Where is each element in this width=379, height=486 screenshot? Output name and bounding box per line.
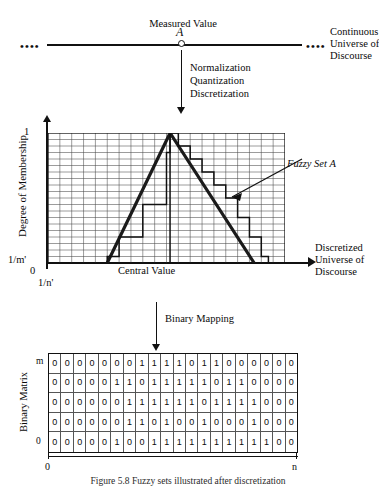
matrix-cell: 0 (273, 374, 285, 394)
matrix-cell: 1 (211, 354, 223, 374)
matrix-cell: 0 (99, 413, 111, 433)
matrix-cell: 0 (111, 354, 123, 374)
x-tick-label-resolution: 1/n' (38, 277, 53, 289)
matrix-cell: 0 (74, 393, 86, 413)
matrix-cell: 0 (74, 374, 86, 394)
matrix-cell: 1 (161, 432, 173, 452)
matrix-cell: 1 (198, 354, 210, 374)
matrix-cell: 0 (261, 413, 273, 433)
matrix-cell: 1 (236, 432, 248, 452)
matrix-cell: 0 (149, 413, 161, 433)
matrix-cell: 0 (286, 393, 297, 413)
continuous-universe-label-1: Continuous (330, 26, 378, 38)
matrix-cell: 0 (136, 432, 148, 452)
matrix-cell: 0 (124, 354, 136, 374)
matrix-cell: 0 (124, 432, 136, 452)
matrix-cell: 1 (248, 393, 260, 413)
matrix-row: 00000001111011000000 (49, 354, 297, 374)
continuous-universe-line (47, 44, 302, 46)
matrix-cell: 0 (136, 374, 148, 394)
matrix-cell: 0 (273, 413, 285, 433)
matrix-cell: 0 (286, 354, 297, 374)
matrix-cell: 1 (124, 413, 136, 433)
figure-caption: Figure 5.8 Fuzzy sets illustrated after … (0, 476, 376, 486)
matrix-cell: 0 (74, 354, 86, 374)
matrix-cell: 0 (61, 354, 73, 374)
matrix-cell: 0 (286, 374, 297, 394)
matrix-cell: 1 (136, 413, 148, 433)
matrix-cell: 1 (111, 374, 123, 394)
matrix-cell: 1 (149, 374, 161, 394)
matrix-cell: 0 (61, 432, 73, 452)
matrix-cell: 1 (174, 393, 186, 413)
matrix-cell: 0 (61, 374, 73, 394)
matrix-x-tick-end (296, 453, 297, 459)
matrix-cell: 1 (236, 374, 248, 394)
binary-matrix: 0000000111101100000000000110111110110000… (48, 353, 298, 453)
matrix-cell: 0 (236, 354, 248, 374)
right-ellipsis-dots: •••• (306, 41, 326, 51)
y-tick-label-min: 1/m' (8, 254, 26, 266)
matrix-cell: 1 (261, 432, 273, 452)
matrix-cell: 0 (248, 374, 260, 394)
matrix-cell: 0 (49, 413, 61, 433)
matrix-cell: 1 (186, 374, 198, 394)
matrix-cell: 0 (286, 432, 297, 452)
matrix-cell: 0 (49, 374, 61, 394)
quantization-label: Quantization (190, 75, 244, 87)
matrix-cell: 0 (261, 374, 273, 394)
binary-matrix-title: Binary Matrix (18, 360, 30, 444)
matrix-cell: 1 (186, 432, 198, 452)
matrix-row: 00000011111101111000 (49, 393, 297, 413)
binary-mapping-label: Binary Mapping (165, 313, 234, 325)
matrix-cell: 1 (198, 374, 210, 394)
matrix-cell: 1 (198, 413, 210, 433)
matrix-cell: 1 (186, 393, 198, 413)
matrix-cell: 0 (223, 413, 235, 433)
matrix-cell: 0 (261, 393, 273, 413)
matrix-cell: 0 (261, 354, 273, 374)
normalization-arrow-stem (181, 50, 183, 108)
matrix-cell: 1 (161, 354, 173, 374)
matrix-cell: 0 (186, 354, 198, 374)
matrix-cell: 0 (248, 354, 260, 374)
matrix-cell: 0 (186, 413, 198, 433)
matrix-cell: 0 (273, 354, 285, 374)
matrix-row-label-bottom: 0 (36, 435, 41, 447)
matrix-cell: 1 (174, 432, 186, 452)
matrix-cell: 0 (61, 393, 73, 413)
matrix-cell: 1 (174, 354, 186, 374)
matrix-cell: 0 (99, 393, 111, 413)
matrix-cell: 1 (223, 393, 235, 413)
matrix-row: 00000110111110110000 (49, 374, 297, 394)
matrix-x-tick-start (48, 453, 49, 459)
matrix-cell: 0 (273, 432, 285, 452)
matrix-cell: 1 (149, 354, 161, 374)
central-value-label: Central Value (118, 265, 175, 277)
matrix-cell: 0 (211, 374, 223, 394)
matrix-cell: 0 (99, 354, 111, 374)
matrix-cell: 1 (161, 413, 173, 433)
matrix-cell: 1 (223, 374, 235, 394)
x-axis-title-3: Discourse (315, 266, 357, 278)
continuous-universe-label-2: Universe of (330, 38, 379, 50)
x-axis-title-2: Universe of (315, 254, 364, 266)
matrix-cell: 0 (99, 374, 111, 394)
matrix-x-label-end: n (292, 461, 297, 473)
matrix-cell: 0 (86, 374, 98, 394)
matrix-cell: 0 (286, 413, 297, 433)
measured-value-node (178, 40, 185, 47)
matrix-cell: 0 (61, 413, 73, 433)
matrix-cell: 0 (273, 393, 285, 413)
matrix-cell: 0 (49, 393, 61, 413)
matrix-cell: 1 (211, 432, 223, 452)
matrix-cell: 1 (161, 374, 173, 394)
matrix-cell: 0 (111, 393, 123, 413)
matrix-x-label-start: 0 (45, 461, 50, 473)
y-axis-title: Degree of Membership (16, 126, 28, 246)
matrix-cell: 1 (124, 393, 136, 413)
left-ellipsis-dots: •••• (20, 41, 40, 51)
measured-point-symbol: A (176, 26, 183, 38)
matrix-cell: 1 (136, 393, 148, 413)
matrix-cell: 0 (86, 413, 98, 433)
